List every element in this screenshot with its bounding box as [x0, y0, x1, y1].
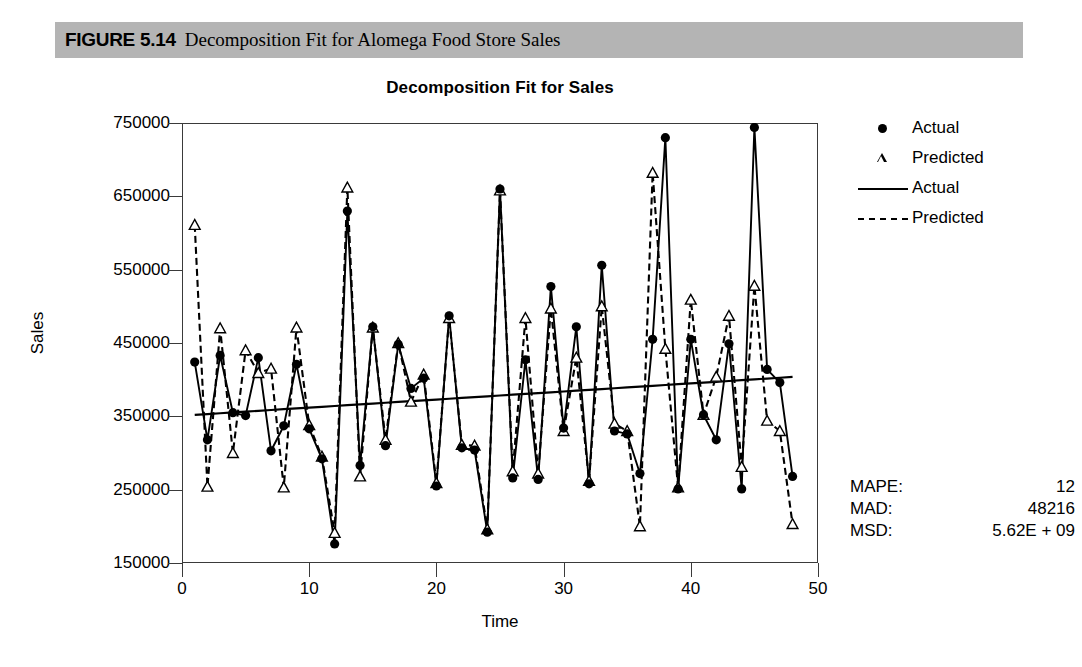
legend-item: Predicted [856, 203, 1066, 233]
actual-data-point [635, 469, 644, 478]
stat-label: MAPE: [850, 476, 903, 498]
predicted-data-point [189, 220, 200, 230]
predicted-data-point [545, 303, 556, 313]
y-axis-tick-mark [168, 416, 182, 417]
stat-row: MAD:48216 [850, 498, 1075, 520]
actual-data-point [305, 424, 314, 433]
actual-data-point [648, 335, 657, 344]
stat-row: MAPE:12 [850, 476, 1075, 498]
y-axis-tick-label: 750000 [74, 113, 170, 133]
actual-data-point [572, 322, 581, 331]
stat-label: MSD: [850, 520, 893, 542]
actual-data-point [254, 353, 263, 362]
filled-circle-icon [878, 124, 887, 133]
y-axis-tick-mark [168, 343, 182, 344]
chart-legend: ActualPredictedActualPredicted [856, 113, 1066, 233]
predicted-data-point [724, 310, 735, 320]
legend-item: Actual [856, 113, 1066, 143]
y-axis-tick-mark [168, 123, 182, 124]
actual-data-point [508, 473, 517, 482]
actual-data-point [623, 429, 632, 438]
legend-item: Predicted [856, 143, 1066, 173]
predicted-data-point [749, 280, 760, 290]
dashed-line-icon [858, 218, 908, 220]
legend-label: Actual [912, 178, 959, 198]
y-axis-tick-mark [168, 563, 182, 564]
actual-data-point [381, 441, 390, 450]
predicted-data-point [202, 481, 213, 491]
y-axis-tick-label: 350000 [74, 406, 170, 426]
actual-data-point [724, 339, 733, 348]
x-axis-tick-marks [182, 563, 818, 577]
y-axis-tick-label: 650000 [74, 186, 170, 206]
legend-key-open-triangle-icon [856, 143, 912, 173]
actual-data-point [661, 133, 670, 142]
x-axis-tick-label: 50 [788, 579, 848, 599]
actual-data-point [495, 184, 504, 193]
actual-data-point [597, 261, 606, 270]
x-axis-tick-labels: 01020304050 [182, 579, 818, 605]
predicted-data-point [635, 521, 646, 531]
y-axis-tick-mark [168, 490, 182, 491]
actual-data-point [445, 311, 454, 320]
legend-key-solid-line-icon [856, 173, 912, 203]
actual-data-point [712, 435, 721, 444]
predicted-data-point [278, 482, 289, 492]
actual-data-point [470, 445, 479, 454]
x-axis-tick-mark [818, 563, 819, 577]
actual-data-point [432, 481, 441, 490]
actual-data-point [266, 446, 275, 455]
actual-data-point [228, 408, 237, 417]
y-axis-tick-label: 150000 [74, 553, 170, 573]
x-axis-title: Time [182, 612, 818, 632]
x-axis-tick-label: 40 [661, 579, 721, 599]
x-axis-tick-label: 10 [279, 579, 339, 599]
predicted-data-point [647, 167, 658, 177]
y-axis-tick-label: 550000 [74, 260, 170, 280]
actual-data-point [534, 475, 543, 484]
predicted-data-point [762, 415, 773, 425]
y-axis-tick-marks [168, 123, 182, 563]
actual-data-point [775, 378, 784, 387]
figure-caption-text: Decomposition Fit for Alomega Food Store… [185, 29, 561, 51]
actual-data-point [483, 528, 492, 537]
x-axis-tick-mark [309, 563, 310, 577]
chart-container: Decomposition Fit for Sales Sales 150000… [0, 58, 1082, 667]
predicted-data-point [291, 322, 302, 332]
predicted-data-point [329, 528, 340, 538]
x-axis-tick-label: 0 [152, 579, 212, 599]
stat-value: 12 [1056, 476, 1075, 498]
x-axis-tick-mark [436, 563, 437, 577]
stat-label: MAD: [850, 498, 893, 520]
y-axis-tick-labels: 1500002500003500004500005500006500007500… [60, 123, 170, 563]
y-axis-title: Sales [28, 273, 48, 393]
actual-data-point [203, 435, 212, 444]
legend-label: Predicted [912, 208, 984, 228]
predicted-data-point [787, 519, 798, 529]
actual-data-point [419, 374, 428, 383]
actual-data-point [546, 282, 555, 291]
predicted-data-point [685, 294, 696, 304]
x-axis-tick-mark [691, 563, 692, 577]
actual-data-point [317, 454, 326, 463]
x-axis-tick-label: 30 [534, 579, 594, 599]
legend-key-filled-circle-icon [856, 113, 912, 143]
x-axis-tick-mark [564, 563, 565, 577]
legend-label: Predicted [912, 148, 984, 168]
predicted-data-point [266, 363, 277, 373]
actual-data-point [673, 484, 682, 493]
legend-key-dashed-line-icon [856, 203, 912, 233]
actual-data-point [394, 340, 403, 349]
actual-data-point [788, 472, 797, 481]
predicted-data-point [520, 313, 531, 323]
predicted-data-point [660, 343, 671, 353]
actual-data-point [190, 357, 199, 366]
actual-data-point [292, 360, 301, 369]
predicted-data-point [736, 462, 747, 472]
solid-line-icon [858, 188, 908, 190]
actual-data-point [457, 443, 466, 452]
actual-data-point [355, 461, 364, 470]
predicted-data-point [355, 471, 366, 481]
y-axis-tick-mark [168, 270, 182, 271]
actual-data-point [241, 411, 250, 420]
